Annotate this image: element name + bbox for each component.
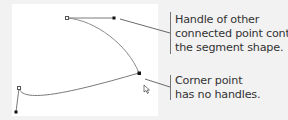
handle-callout-line-3: the segment shape. (175, 41, 288, 55)
corner-callout-leader (145, 79, 170, 87)
handle-callout-line-2: connected point controls (175, 27, 288, 41)
anchor-point-hollow-left[interactable] (18, 87, 21, 90)
curved-segment-upper (67, 18, 139, 73)
handle-callout-text: Handle of other connected point controls… (175, 13, 288, 55)
curved-segment-lower (19, 73, 139, 95)
anchor-point-bottom[interactable] (15, 111, 18, 114)
corner-callout-line-1: Corner point (175, 74, 260, 88)
corner-point[interactable] (138, 72, 142, 76)
direct-selection-arrow-icon (144, 85, 150, 94)
handle-callout-leader (120, 19, 170, 33)
corner-callout-line-2: has no handles. (175, 88, 260, 102)
handle-point[interactable] (113, 17, 116, 20)
corner-callout-text: Corner point has no handles. (175, 74, 260, 102)
handle-callout-line-1: Handle of other (175, 13, 288, 27)
straight-segment (16, 88, 19, 112)
anchor-point-hollow-top[interactable] (66, 17, 69, 20)
